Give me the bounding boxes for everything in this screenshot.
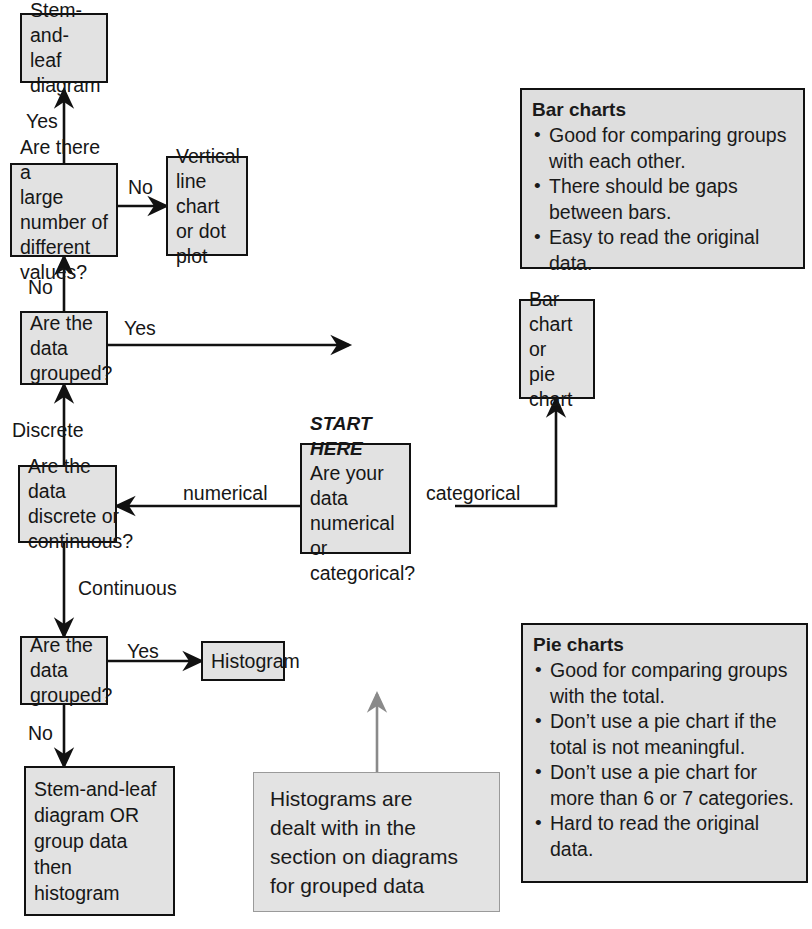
node-label: Histogram [203, 649, 299, 674]
note-heading: Bar charts [532, 98, 793, 121]
list-item: Don’t use a pie chart for more than 6 or… [533, 760, 796, 811]
node-label: Stem-and- leaf diagram [22, 0, 108, 98]
note-pie-charts: Pie charts Good for comparing groups wit… [521, 623, 808, 883]
node-label: Vertical line chart or dot plot [168, 144, 248, 269]
node-label: Stem-and-leaf diagram OR group data then… [26, 776, 173, 906]
note-bullet-list: Good for comparing groups with each othe… [532, 123, 793, 276]
node-label: Are there a large number of different va… [12, 135, 116, 285]
list-item: There should be gaps between bars. [532, 174, 793, 225]
node-are-the-data-discrete-or-continuous[interactable]: Are the data discrete or continuous? [18, 465, 117, 543]
edge-label-no-stem-leaf-or: No [28, 722, 53, 744]
note-heading: Pie charts [533, 633, 796, 656]
node-label: Are the data grouped? [22, 311, 120, 386]
edge-label-no-vertical-line: No [128, 176, 153, 198]
edge-label-categorical: categorical [426, 482, 520, 504]
node-are-the-data-grouped-continuous[interactable]: Are the data grouped? [20, 636, 108, 705]
node-histogram[interactable]: Histogram [201, 641, 285, 681]
list-item: Easy to read the original data. [532, 225, 793, 276]
edge-label-yes-stem-leaf: Yes [26, 110, 58, 132]
node-start-here[interactable]: START HERE Are your data numerical or ca… [300, 443, 411, 554]
node-stem-and-leaf-diagram[interactable]: Stem-and- leaf diagram [20, 13, 108, 83]
edge-label-continuous: Continuous [78, 577, 177, 599]
start-here-title: START HERE [310, 411, 415, 461]
list-item: Don’t use a pie chart if the total is no… [533, 709, 796, 760]
edge-label-yes-histogram: Yes [127, 640, 159, 662]
list-item: Good for comparing groups with the total… [533, 658, 796, 709]
edge-label-no-up-to-large-number: No [28, 276, 53, 298]
list-item: Good for comparing groups with each othe… [532, 123, 793, 174]
note-bar-charts: Bar charts Good for comparing groups wit… [520, 88, 805, 269]
node-bar-chart-or-pie-chart[interactable]: Bar chart or pie chart [519, 299, 595, 399]
node-are-the-data-grouped-discrete[interactable]: Are the data grouped? [20, 311, 108, 385]
edge-label-numerical: numerical [183, 482, 268, 504]
node-are-there-large-number-of-different-values[interactable]: Are there a large number of different va… [10, 163, 118, 257]
note-histograms-dealt-with-elsewhere: Histograms are dealt with in the section… [253, 772, 500, 912]
node-label: Are the data discrete or continuous? [20, 454, 131, 554]
node-label: Are the data grouped? [22, 633, 120, 708]
note-text: Histograms are dealt with in the section… [254, 784, 474, 900]
node-vertical-line-chart-or-dot-plot[interactable]: Vertical line chart or dot plot [166, 156, 248, 256]
edge-label-yes-bar-or-pie: Yes [124, 317, 156, 339]
note-bullet-list: Good for comparing groups with the total… [533, 658, 796, 862]
node-stem-and-leaf-or-group-data[interactable]: Stem-and-leaf diagram OR group data then… [24, 766, 175, 916]
start-here-body: Are your data numerical or categorical? [310, 462, 415, 584]
node-label: Bar chart or pie chart [521, 287, 593, 412]
list-item: Hard to read the original data. [533, 811, 796, 862]
edge-label-discrete: Discrete [12, 419, 84, 441]
